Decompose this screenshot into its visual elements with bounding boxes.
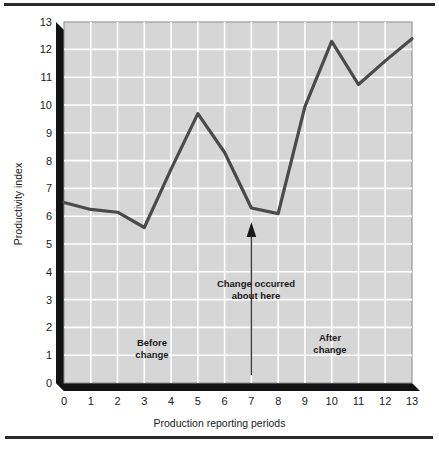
plot-bottom-shadow [56, 383, 420, 391]
annotation-change-occurred: Change occurred about here [196, 278, 316, 301]
plot-left-shadow [56, 22, 64, 391]
y-tick-6: 6 [30, 210, 52, 222]
y-tick-8: 8 [30, 155, 52, 167]
y-tick-11: 11 [30, 71, 52, 83]
chart-canvas [0, 0, 439, 450]
y-axis-title: Productivity index [12, 144, 24, 264]
annotation-change-line1: Change occurred [196, 278, 316, 290]
y-tick-4: 4 [30, 266, 52, 278]
x-tick-12: 12 [375, 395, 395, 407]
plot-background [64, 22, 412, 383]
x-tick-10: 10 [322, 395, 342, 407]
annotation-after-line2: change [300, 344, 360, 356]
x-tick-8: 8 [268, 395, 288, 407]
annotation-change-line2: about here [196, 290, 316, 302]
annotation-before-line1: Before [122, 337, 182, 349]
y-tick-5: 5 [30, 238, 52, 250]
annotation-after-change: After change [300, 332, 360, 355]
x-axis-title: Production reporting periods [0, 417, 439, 429]
x-tick-0: 0 [54, 395, 74, 407]
y-tick-3: 3 [30, 294, 52, 306]
y-tick-0: 0 [30, 377, 52, 389]
x-tick-9: 9 [295, 395, 315, 407]
x-tick-1: 1 [81, 395, 101, 407]
annotation-before-line2: change [122, 349, 182, 361]
x-tick-3: 3 [134, 395, 154, 407]
y-tick-13: 13 [30, 16, 52, 28]
x-tick-6: 6 [215, 395, 235, 407]
x-tick-7: 7 [241, 395, 261, 407]
x-tick-4: 4 [161, 395, 181, 407]
annotation-after-line1: After [300, 332, 360, 344]
x-tick-13: 13 [402, 395, 422, 407]
y-tick-10: 10 [30, 99, 52, 111]
y-tick-12: 12 [30, 43, 52, 55]
y-tick-2: 2 [30, 321, 52, 333]
x-tick-11: 11 [349, 395, 369, 407]
x-tick-5: 5 [188, 395, 208, 407]
y-tick-9: 9 [30, 127, 52, 139]
x-tick-2: 2 [108, 395, 128, 407]
y-tick-7: 7 [30, 182, 52, 194]
y-tick-1: 1 [30, 349, 52, 361]
figure-container: 13 12 11 10 9 8 7 6 5 4 3 2 1 0 0 1 2 3 … [0, 0, 439, 450]
annotation-before-change: Before change [122, 337, 182, 360]
